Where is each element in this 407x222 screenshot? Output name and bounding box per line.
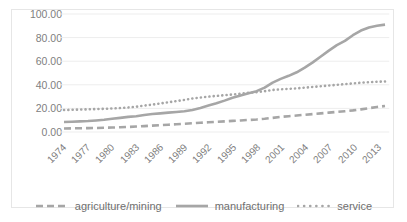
x-axis-tick-label: 1989 (167, 142, 190, 165)
dotted-line-swatch (297, 201, 331, 211)
x-axis-tick-label: 2004 (288, 142, 311, 165)
dashed-line-swatch (35, 201, 69, 211)
y-axis-tick-label: 80.00 (16, 32, 62, 43)
chart-frame: 100.0080.0060.0040.0020.000.00 197419771… (11, 9, 394, 208)
x-axis: 1974197719801983198619891992199519982001… (64, 134, 385, 180)
y-axis-tick-label: 20.00 (16, 103, 62, 114)
legend-label: service (337, 200, 372, 212)
lines-svg (64, 14, 385, 132)
legend-label: manufacturing (215, 200, 285, 212)
solid-line-swatch (175, 201, 209, 211)
y-axis-tick-label: 60.00 (16, 56, 62, 67)
x-axis-tick-label: 1983 (118, 142, 141, 165)
legend-item[interactable]: agriculture/mining (35, 200, 162, 212)
x-axis-tick-label: 2010 (336, 142, 359, 165)
x-axis-tick-label: 1995 (215, 142, 238, 165)
x-axis-tick-label: 2007 (312, 142, 335, 165)
series-canvas (64, 14, 385, 132)
y-axis: 100.0080.0060.0040.0020.000.00 (14, 10, 62, 207)
chart-legend: agriculture/miningmanufacturingservice (0, 200, 407, 212)
legend-label: agriculture/mining (75, 200, 162, 212)
x-axis-tick-label: 1998 (239, 142, 262, 165)
x-axis-tick-label: 2001 (264, 142, 287, 165)
legend-item[interactable]: service (297, 200, 372, 212)
x-axis-tick-label: 2013 (361, 142, 384, 165)
y-axis-tick-label: 40.00 (16, 80, 62, 91)
cut-off-caption (10, 0, 400, 3)
series-line-service (64, 81, 385, 110)
legend-item[interactable]: manufacturing (175, 200, 285, 212)
x-axis-tick-label: 1977 (70, 142, 93, 165)
y-axis-tick-label: 0.00 (16, 127, 62, 138)
x-axis-tick-label: 1980 (94, 142, 117, 165)
x-axis-tick-label: 1986 (143, 142, 166, 165)
y-axis-tick-label: 100.00 (16, 9, 62, 20)
x-axis-tick-label: 1992 (191, 142, 214, 165)
chart-plot-area: 100.0080.0060.0040.0020.000.00 197419771… (12, 10, 393, 207)
series-line-manufacturing (64, 25, 385, 122)
